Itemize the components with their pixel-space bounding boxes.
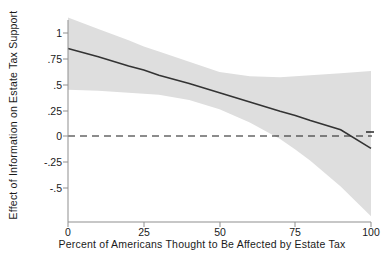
y-tick-label: -.5 <box>50 182 62 194</box>
x-axis-title: Percent of Americans Thought to Be Affec… <box>26 238 378 250</box>
y-tick-label: .75 <box>47 53 62 65</box>
y-tick-label: -.25 <box>44 156 62 168</box>
x-tick-label: 0 <box>65 226 71 238</box>
y-tick-label: .25 <box>47 105 62 117</box>
y-tick-label: 1 <box>56 27 62 39</box>
y-tick-label: .5 <box>53 79 62 91</box>
x-tick-label: 50 <box>214 226 226 238</box>
confidence-interval-band <box>68 18 371 217</box>
x-tick-label: 75 <box>289 226 301 238</box>
estate-tax-marginal-effect-chart: Effect of Information on Estate Tax Supp… <box>0 0 385 273</box>
y-axis-title: Effect of Information on Estate Tax Supp… <box>7 11 19 220</box>
x-tick-label: 25 <box>138 226 150 238</box>
y-axis-title-container: Effect of Information on Estate Tax Supp… <box>0 0 26 230</box>
y-axis-ticks <box>63 33 68 188</box>
x-tick-label: 100 <box>362 226 380 238</box>
y-tick-label: 0 <box>56 130 62 142</box>
